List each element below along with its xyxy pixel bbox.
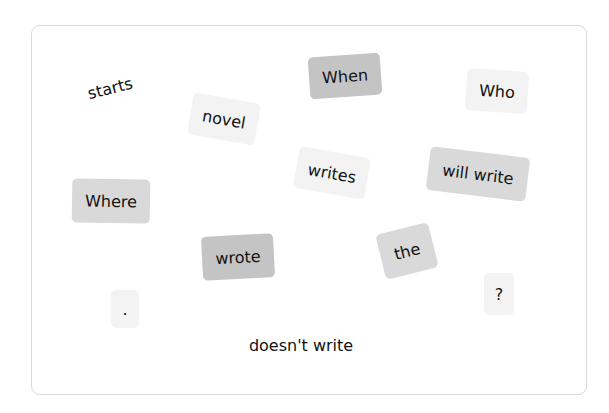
- word-tile-period[interactable]: .: [111, 290, 139, 328]
- word-tile-doesnt-write[interactable]: doesn't write: [236, 330, 366, 360]
- word-tile-when[interactable]: When: [308, 53, 383, 100]
- word-tile-who[interactable]: Who: [465, 68, 530, 114]
- word-tile-where[interactable]: Where: [72, 178, 151, 223]
- word-tile-wrote[interactable]: wrote: [201, 233, 275, 281]
- word-tile-question-mark[interactable]: ?: [484, 273, 514, 315]
